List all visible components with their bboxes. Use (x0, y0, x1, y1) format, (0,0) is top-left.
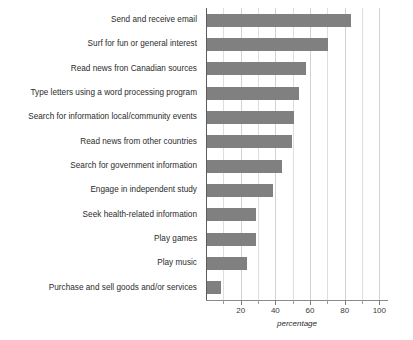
bar (207, 62, 306, 75)
horizontal-bar-chart: Send and receive email Surf for fun or g… (0, 0, 413, 340)
bar (207, 160, 282, 173)
category-label-row: Search for information local/community e… (0, 105, 202, 129)
axis-tick (310, 300, 311, 305)
axis-tick-label: 20 (236, 306, 245, 315)
axis-tick (241, 300, 242, 305)
category-label: Read news from other countries (80, 138, 197, 146)
category-label: Surf for fun or general interest (88, 40, 197, 48)
bar-slot (207, 154, 388, 178)
bar (207, 14, 351, 27)
category-label-row: Read news fron Canadian sources (0, 57, 202, 81)
bar-slot (207, 57, 388, 81)
axis-tick (362, 300, 363, 304)
x-axis-tick-labels: 20406080100 (206, 306, 388, 318)
category-axis-labels: Send and receive email Surf for fun or g… (0, 8, 202, 300)
category-label: Seek health-related information (83, 211, 197, 219)
bar (207, 38, 328, 51)
axis-tick (275, 300, 276, 305)
bar-slot (207, 227, 388, 251)
category-label-row: Read news from other countries (0, 130, 202, 154)
x-axis-ticks (206, 300, 388, 305)
plot-area (206, 8, 388, 300)
bar (207, 184, 273, 197)
bar-slot (207, 130, 388, 154)
axis-tick (345, 300, 346, 305)
category-label-row: Search for government information (0, 154, 202, 178)
category-label: Engage in independent study (90, 186, 197, 194)
bar-slot (207, 8, 388, 32)
bar-series (207, 8, 388, 300)
category-label: Play music (157, 259, 197, 267)
axis-tick-label: 80 (340, 306, 349, 315)
bar-slot (207, 32, 388, 56)
bar (207, 233, 256, 246)
bar (207, 87, 299, 100)
category-label-row: Play games (0, 227, 202, 251)
axis-tick-label: 40 (271, 306, 280, 315)
bar-slot (207, 81, 388, 105)
bar-slot (207, 276, 388, 300)
category-label-row: Play music (0, 251, 202, 275)
axis-tick (223, 300, 224, 304)
bar-slot (207, 203, 388, 227)
bar (207, 281, 221, 294)
category-label-row: Type letters using a word processing pro… (0, 81, 202, 105)
axis-tick (258, 300, 259, 304)
bar (207, 135, 292, 148)
category-label: Read news fron Canadian sources (71, 65, 197, 73)
category-label: Type letters using a word processing pro… (30, 89, 197, 97)
category-label: Send and receive email (111, 16, 197, 24)
category-label: Search for information local/community e… (28, 113, 197, 121)
bar (207, 111, 294, 124)
axis-tick-label: 60 (306, 306, 315, 315)
bar (207, 208, 256, 221)
bar (207, 257, 247, 270)
axis-tick (327, 300, 328, 304)
axis-tick (379, 300, 380, 305)
category-label-row: Send and receive email (0, 8, 202, 32)
category-label-row: Purchase and sell goods and/or services (0, 276, 202, 300)
category-label: Purchase and sell goods and/or services (49, 284, 197, 292)
bar-slot (207, 105, 388, 129)
axis-tick-label: 100 (373, 306, 386, 315)
bar-slot (207, 178, 388, 202)
category-label-row: Engage in independent study (0, 178, 202, 202)
category-label: Play games (154, 235, 197, 243)
category-label-row: Surf for fun or general interest (0, 32, 202, 56)
category-label-row: Seek health-related information (0, 203, 202, 227)
bar-slot (207, 251, 388, 275)
category-label: Search for government information (70, 162, 197, 170)
axis-tick (293, 300, 294, 304)
x-axis-title: percentage (206, 319, 388, 328)
